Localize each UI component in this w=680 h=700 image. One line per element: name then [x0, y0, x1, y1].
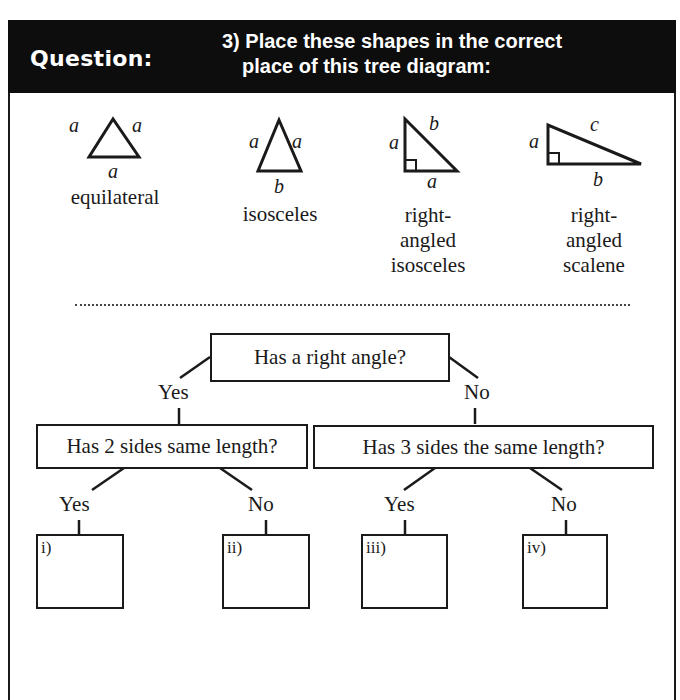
isosceles-side-right: a	[292, 130, 302, 153]
answer-label-i: i)	[41, 538, 51, 558]
two-sides-node: Has 2 sides same length?	[36, 424, 308, 469]
three-sides-node: Has 3 sides the same length?	[313, 425, 654, 469]
answer-box-iv[interactable]: iv)	[522, 534, 608, 609]
right-isosceles-side-bottom: a	[427, 170, 437, 193]
two-sides-no-label: No	[248, 492, 274, 517]
root-node: Has a right angle?	[210, 333, 450, 382]
equilateral-side-right: a	[132, 114, 142, 137]
isosceles-side-bottom: b	[274, 175, 284, 198]
right-isosceles-side-hyp: b	[429, 112, 439, 135]
right-scalene-side-hyp: c	[590, 113, 599, 136]
three-sides-no-label: No	[551, 492, 577, 517]
equilateral-side-left: a	[69, 114, 79, 137]
right-scalene-side-bottom: b	[593, 168, 603, 191]
root-yes-label: Yes	[158, 380, 189, 405]
isosceles-side-left: a	[249, 130, 259, 153]
answer-label-ii: ii)	[227, 538, 242, 558]
root-no-label: No	[464, 380, 490, 405]
shape-name-isosceles: isosceles	[220, 202, 340, 227]
equilateral-side-bottom: a	[108, 160, 118, 183]
two-sides-yes-label: Yes	[59, 492, 90, 517]
right-isosceles-side-left: a	[389, 131, 399, 154]
answer-label-iii: iii)	[366, 538, 386, 558]
dotted-divider	[75, 304, 630, 306]
shape-name-equilateral: equilateral	[55, 185, 175, 210]
answer-box-ii[interactable]: ii)	[222, 534, 310, 609]
shape-name-right-isosceles: right- angled isosceles	[368, 203, 488, 278]
right-scalene-side-left: a	[529, 130, 539, 153]
three-sides-yes-label: Yes	[384, 492, 415, 517]
shape-name-right-scalene: right- angled scalene	[534, 203, 654, 278]
answer-box-iii[interactable]: iii)	[361, 534, 448, 609]
answer-label-iv: iv)	[527, 538, 546, 558]
answer-box-i[interactable]: i)	[36, 534, 124, 609]
